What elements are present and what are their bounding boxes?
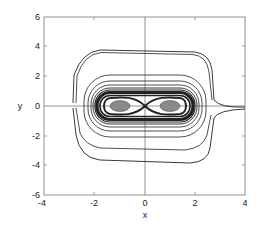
- svg-text:-2: -2: [32, 131, 40, 141]
- x-axis-label: x: [143, 210, 148, 220]
- svg-text:4: 4: [35, 41, 40, 51]
- svg-text:4: 4: [242, 198, 247, 208]
- y-axis-label: y: [18, 101, 23, 111]
- svg-text:2: 2: [35, 71, 40, 81]
- x-tick-labels: -4 -2 0 2 4: [38, 198, 248, 208]
- svg-text:-2: -2: [90, 198, 98, 208]
- svg-text:-4: -4: [38, 198, 46, 208]
- center-left: [110, 101, 130, 112]
- center-right: [160, 101, 180, 112]
- svg-text:0: 0: [142, 198, 147, 208]
- svg-text:6: 6: [35, 12, 40, 22]
- y-tick-labels: 6 4 2 0 -2 -4 -6: [32, 12, 40, 200]
- svg-text:-4: -4: [32, 160, 40, 170]
- trajectories: [73, 50, 245, 163]
- svg-text:0: 0: [35, 101, 40, 111]
- phase-portrait-chart: 6 4 2 0 -2 -4 -6 -4 -2 0 2 4 x y: [0, 0, 262, 230]
- svg-text:2: 2: [192, 198, 197, 208]
